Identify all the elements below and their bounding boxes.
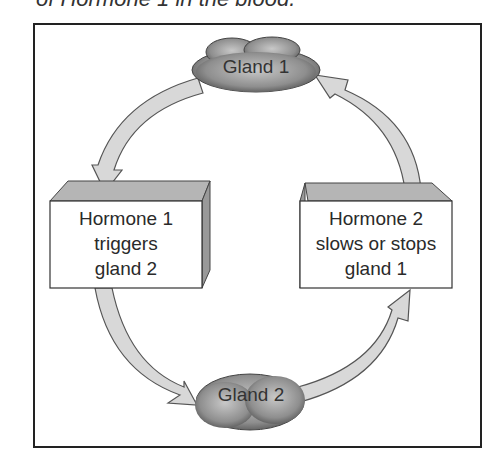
box-right-line-1: Hormone 2 [300,206,452,231]
arrow-gland1-to-box-left [92,78,203,192]
box-right-line-3: gland 1 [300,256,452,281]
box-right-line-2: slows or stops [300,231,452,256]
box-right-text: Hormone 2 slows or stops gland 1 [300,206,452,281]
arrow-box-left-to-gland2 [95,288,197,405]
arrow-box-right-to-gland1 [315,75,421,190]
box-left-line-1: Hormone 1 [50,206,202,231]
box-left-line-2: triggers [50,231,202,256]
gland2-label: Gland 2 [205,384,297,406]
box-left-line-3: gland 2 [50,256,202,281]
arrow-gland2-to-box-right [298,290,410,402]
gland1-label: Gland 1 [210,56,302,78]
box-left-text: Hormone 1 triggers gland 2 [50,206,202,281]
